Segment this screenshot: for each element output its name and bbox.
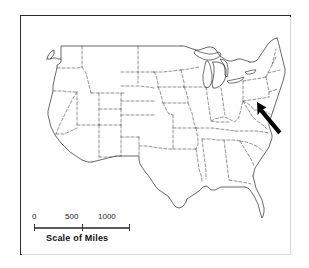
scale-tick-label-500: 500 xyxy=(65,212,78,221)
scale-tick-labels: 0 500 1000 xyxy=(32,212,142,223)
national-outline xyxy=(47,38,285,218)
scale-rule xyxy=(34,224,130,231)
figure-container: 0 500 1000 Scale of Miles xyxy=(0,0,309,268)
scale-tick-1000 xyxy=(129,224,130,231)
scale-tick-0 xyxy=(34,224,35,231)
state-borders-west xyxy=(53,46,124,157)
arrow-icon xyxy=(257,102,282,134)
scale-tick-label-1000: 1000 xyxy=(98,212,116,221)
scale-tick-label-0: 0 xyxy=(32,212,36,221)
scale-caption: Scale of Miles xyxy=(46,233,108,243)
scale-tick-500 xyxy=(82,224,83,231)
great-lakes xyxy=(194,50,256,88)
state-borders-plains xyxy=(121,46,206,181)
scale-bar: 0 500 1000 Scale of Miles xyxy=(32,212,142,252)
